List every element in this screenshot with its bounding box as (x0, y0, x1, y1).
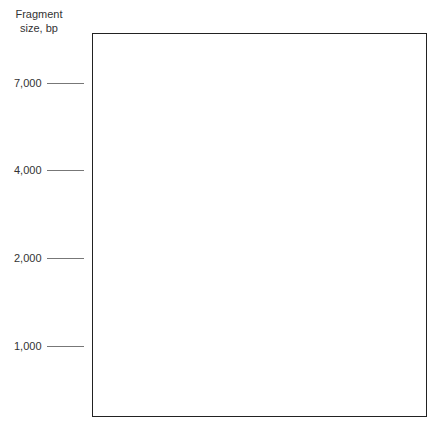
y-axis-title-line1: Fragment (2, 7, 76, 21)
y-tick-line (47, 258, 84, 259)
y-tick-line (47, 83, 84, 84)
y-tick-line (47, 346, 84, 347)
gel-area (92, 33, 427, 417)
y-axis-title: Fragment size, bp (2, 7, 76, 35)
y-tick-label: 4,000 (14, 162, 44, 178)
y-tick-label: 2,000 (14, 250, 44, 266)
y-tick-label: 7,000 (14, 75, 44, 91)
y-tick-label: 1,000 (14, 338, 44, 354)
y-tick-line (47, 170, 84, 171)
y-axis-title-line2: size, bp (2, 21, 76, 35)
